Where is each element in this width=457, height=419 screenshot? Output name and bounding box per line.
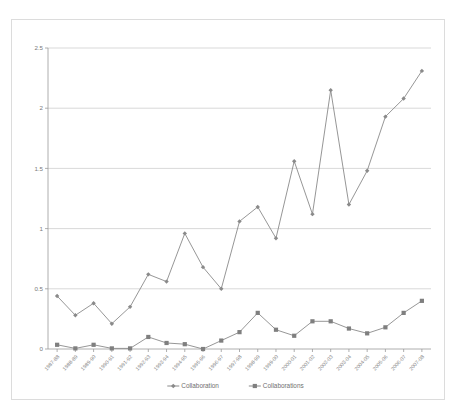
x-axis-labels: 1987-881988-891989-901990-911991-921992-… bbox=[43, 349, 425, 372]
x-axis-tick-label: 1996-97 bbox=[207, 354, 224, 372]
data-point bbox=[110, 346, 114, 350]
data-point bbox=[292, 159, 296, 163]
legend-label: Collaborations bbox=[263, 382, 304, 389]
data-point bbox=[383, 325, 387, 329]
chart-plot-area: 00.511.522.51987-881988-891989-901990-91… bbox=[12, 20, 446, 401]
x-axis-tick-label: 1988-89 bbox=[61, 354, 78, 372]
y-axis-tick-label: 1 bbox=[40, 225, 44, 232]
axes bbox=[48, 48, 431, 349]
x-axis-tick-label: 1990-91 bbox=[98, 354, 115, 372]
data-point bbox=[146, 272, 150, 276]
chart-frame: 00.511.522.51987-881988-891989-901990-91… bbox=[11, 19, 445, 400]
x-axis-tick-label: 1995-96 bbox=[189, 354, 206, 372]
legend-label: Collaboration bbox=[181, 382, 219, 389]
data-point bbox=[146, 335, 150, 339]
chart-legend: CollaborationCollaborations bbox=[167, 382, 303, 389]
x-axis-tick-label: 1997-98 bbox=[225, 354, 242, 372]
data-point bbox=[365, 331, 369, 335]
x-axis-tick-label: 1994-95 bbox=[171, 354, 188, 372]
x-axis-tick-label: 1991-92 bbox=[116, 354, 133, 372]
data-point bbox=[328, 88, 332, 92]
data-point bbox=[183, 231, 187, 235]
data-point bbox=[73, 346, 77, 350]
data-point bbox=[274, 236, 278, 240]
series-line bbox=[57, 71, 422, 324]
data-point bbox=[420, 299, 424, 303]
data-point bbox=[219, 338, 223, 342]
x-axis-tick-label: 2004-05 bbox=[353, 354, 370, 372]
x-axis-tick-label: 1998-99 bbox=[244, 354, 261, 372]
data-point bbox=[274, 328, 278, 332]
x-axis-tick-label: 2002-03 bbox=[317, 354, 334, 372]
x-axis-tick-label: 1992-93 bbox=[134, 354, 151, 372]
x-axis-tick-label: 2005-06 bbox=[371, 354, 388, 372]
line-chart: 00.511.522.51987-881988-891989-901990-91… bbox=[12, 20, 446, 401]
x-axis-tick-label: 2000-01 bbox=[280, 354, 297, 372]
x-axis-tick-label: 2003-04 bbox=[335, 354, 352, 372]
grid-lines: 00.511.522.5 bbox=[34, 44, 431, 352]
data-point bbox=[91, 343, 95, 347]
y-axis-tick-label: 1.5 bbox=[34, 165, 43, 172]
data-point bbox=[201, 347, 205, 351]
y-axis-tick-label: 0.5 bbox=[34, 285, 43, 292]
data-point bbox=[292, 334, 296, 338]
data-point bbox=[55, 343, 59, 347]
data-point bbox=[347, 202, 351, 206]
data-point bbox=[365, 169, 369, 173]
data-point bbox=[310, 212, 314, 216]
data-point bbox=[237, 330, 241, 334]
data-point bbox=[256, 311, 260, 315]
x-axis-tick-label: 2001-02 bbox=[298, 354, 315, 372]
legend-item-2[interactable]: Collaborations bbox=[249, 382, 304, 389]
x-axis-tick-label: 1987-88 bbox=[43, 354, 60, 372]
x-axis-tick-label: 1999-00 bbox=[262, 354, 279, 372]
series-2 bbox=[55, 299, 424, 351]
data-point bbox=[183, 342, 187, 346]
x-axis-tick-label: 1989-90 bbox=[79, 354, 96, 372]
y-axis-tick-label: 2.5 bbox=[34, 44, 43, 51]
data-point bbox=[347, 326, 351, 330]
data-point bbox=[164, 341, 168, 345]
data-point bbox=[310, 319, 314, 323]
legend-square-marker bbox=[253, 384, 257, 388]
data-point bbox=[164, 279, 168, 283]
data-point bbox=[402, 311, 406, 315]
x-axis-tick-label: 2006-07 bbox=[389, 354, 406, 372]
y-axis-tick-label: 0 bbox=[40, 345, 44, 352]
data-point bbox=[128, 346, 132, 350]
x-axis-tick-label: 1993-94 bbox=[152, 354, 169, 372]
legend-item-1[interactable]: Collaboration bbox=[167, 382, 219, 389]
data-point bbox=[329, 319, 333, 323]
x-axis-tick-label: 2007-08 bbox=[408, 354, 425, 372]
series-1 bbox=[55, 69, 424, 326]
y-axis-tick-label: 2 bbox=[40, 104, 44, 111]
legend-diamond-marker bbox=[171, 384, 176, 389]
